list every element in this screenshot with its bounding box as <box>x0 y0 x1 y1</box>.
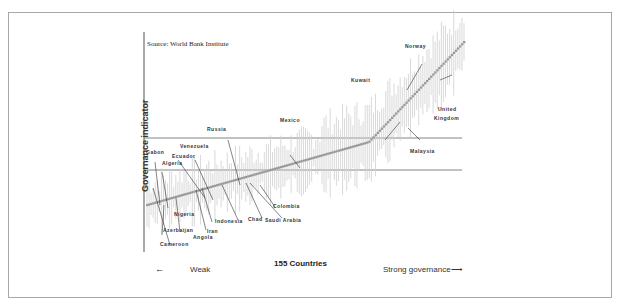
annotation-uk-line1: United <box>438 106 457 112</box>
annotation-norway: Norway <box>405 43 426 49</box>
annotation-russia: Russia <box>207 126 226 132</box>
annotation-kuwait: Kuwait <box>351 77 370 83</box>
annotation-algeria: Algeria <box>162 160 182 166</box>
annotation-malaysia: Malaysia <box>410 148 435 154</box>
annotation-venezuela: Venezuela <box>180 143 209 149</box>
source-note: Source: World Bank Institute <box>147 40 229 48</box>
x-axis-label: 155 Countries <box>274 259 327 268</box>
annotation-cameroon: Cameroon <box>160 241 189 247</box>
annotation-mexico: Mexico <box>280 117 300 123</box>
annotation-indonesia: Indonesia <box>215 218 243 224</box>
annotation-azerbaijan: Azerbaijan <box>163 227 193 233</box>
y-axis-label: Governance indicator <box>140 99 150 192</box>
annotation-colombia: Colombia <box>273 203 300 209</box>
annotation-angola: Angola <box>193 234 213 240</box>
annotation-saudi-arabia: Saudi Arabia <box>265 217 301 223</box>
strong-governance-label: Strong governance⟶ <box>383 265 462 274</box>
annotation-chad: Chad <box>248 216 263 222</box>
left-arrow-icon: ← <box>155 264 164 274</box>
weak-label: Weak <box>190 265 210 274</box>
annotation-uk-line2: Kingdom <box>434 115 459 121</box>
annotation-ecuador: Ecuador <box>172 153 196 159</box>
annotation-nigeria: Nigeria <box>174 211 194 217</box>
annotation-gabon: Gabon <box>146 149 164 155</box>
